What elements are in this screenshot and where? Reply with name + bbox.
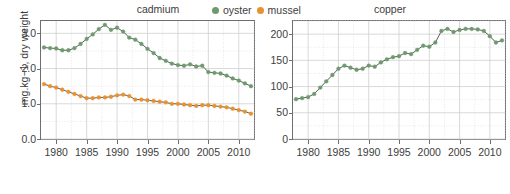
plot-area-copper — [292, 20, 506, 140]
panel-copper — [292, 20, 506, 160]
oyster-marker-icon — [212, 7, 219, 14]
y-tick-label: 2.0 — [6, 62, 36, 74]
y-tick-label: 0.0 — [6, 133, 36, 145]
x-tick-mark — [460, 140, 461, 144]
y-tick-label: 150 — [264, 54, 288, 66]
legend-label-oyster: oyster — [223, 4, 252, 16]
x-tick-mark — [87, 140, 88, 144]
x-tick-label: 2000 — [161, 146, 195, 158]
x-tick-mark — [56, 140, 57, 144]
panel-title-cadmium: cadmium — [118, 3, 198, 15]
legend-label-mussel: mussel — [268, 4, 301, 16]
y-tick-mark — [289, 34, 292, 35]
x-tick-label: 1985 — [321, 146, 355, 158]
y-tick-label: 3.0 — [6, 27, 36, 39]
x-tick-label: 1980 — [39, 146, 73, 158]
y-tick-label: 0 — [264, 133, 288, 145]
y-tick-mark — [289, 60, 292, 61]
x-tick-mark — [399, 140, 400, 144]
x-tick-label: 1990 — [100, 146, 134, 158]
y-tick-mark — [37, 69, 40, 70]
x-tick-mark — [117, 140, 118, 144]
x-tick-mark — [239, 140, 240, 144]
x-tick-mark — [338, 140, 339, 144]
x-tick-label: 2005 — [443, 146, 477, 158]
x-tick-label: 1995 — [131, 146, 165, 158]
y-tick-mark — [289, 139, 292, 140]
plot-area-cadmium — [40, 20, 255, 140]
x-tick-label: 2010 — [473, 146, 507, 158]
x-tick-mark — [178, 140, 179, 144]
legend: oyster mussel — [212, 3, 342, 17]
mussel-marker-icon — [257, 7, 264, 14]
y-tick-label: 200 — [264, 28, 288, 40]
x-tick-label: 1985 — [70, 146, 104, 158]
y-tick-label: 1.0 — [6, 97, 36, 109]
legend-item-oyster: oyster — [212, 4, 252, 16]
x-tick-mark — [490, 140, 491, 144]
x-tick-label: 2000 — [412, 146, 446, 158]
y-tick-mark — [37, 139, 40, 140]
x-tick-label: 1995 — [382, 146, 416, 158]
panel-title-copper: copper — [350, 3, 430, 15]
y-tick-mark — [37, 104, 40, 105]
x-tick-label: 2010 — [222, 146, 256, 158]
y-tick-mark — [289, 87, 292, 88]
legend-item-mussel: mussel — [257, 4, 301, 16]
x-tick-mark — [148, 140, 149, 144]
panel-cadmium — [40, 20, 255, 160]
x-tick-label: 1990 — [352, 146, 386, 158]
x-tick-label: 1980 — [291, 146, 325, 158]
x-tick-mark — [429, 140, 430, 144]
chart-figure: cadmium copper oyster mussel mg.kg−1, dr… — [0, 0, 510, 194]
y-tick-label: 100 — [264, 80, 288, 92]
y-tick-mark — [289, 113, 292, 114]
x-tick-mark — [369, 140, 370, 144]
x-tick-mark — [208, 140, 209, 144]
y-tick-mark — [37, 33, 40, 34]
figure-header: cadmium copper oyster mussel — [0, 0, 510, 20]
x-tick-mark — [308, 140, 309, 144]
x-tick-label: 2005 — [191, 146, 225, 158]
y-tick-label: 50 — [264, 106, 288, 118]
